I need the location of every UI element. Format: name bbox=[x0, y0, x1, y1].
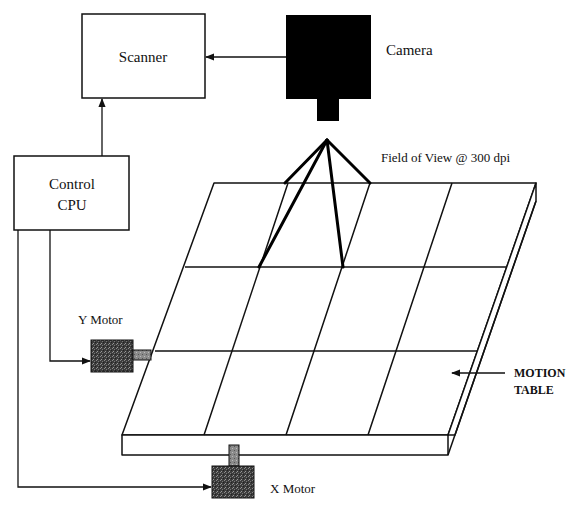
field-of-view-label: Field of View @ 300 dpi bbox=[381, 150, 510, 165]
motion-table-label-line2: TABLE bbox=[514, 383, 554, 397]
motion-table-label-line1: MOTION bbox=[514, 366, 566, 380]
y-motor-shaft-icon bbox=[133, 350, 151, 360]
camera-lens-icon bbox=[317, 99, 339, 121]
x-motor-icon bbox=[212, 466, 254, 498]
table-front-edge bbox=[122, 435, 448, 455]
motion-table-scanner-diagram: Scanner Camera Control CPU bbox=[0, 0, 581, 510]
control-cpu-label-line1: Control bbox=[49, 176, 95, 192]
scanner-label: Scanner bbox=[119, 49, 167, 65]
camera-label: Camera bbox=[386, 42, 433, 58]
camera-node: Camera bbox=[286, 15, 433, 121]
y-motor-label: Y Motor bbox=[78, 312, 123, 327]
control-cpu-node: Control CPU bbox=[14, 156, 129, 230]
camera-body-icon bbox=[286, 15, 371, 99]
table-top-surface bbox=[122, 183, 536, 435]
control-cpu-box bbox=[14, 156, 129, 230]
scanner-node: Scanner bbox=[82, 14, 205, 98]
y-motor-node: Y Motor bbox=[78, 312, 151, 372]
x-motor-shaft-icon bbox=[229, 445, 239, 466]
y-motor-icon bbox=[91, 340, 133, 372]
x-motor-label: X Motor bbox=[270, 481, 316, 496]
cpu-to-y-motor-arrow bbox=[50, 230, 90, 361]
control-cpu-label-line2: CPU bbox=[57, 197, 86, 213]
motion-table bbox=[122, 183, 536, 455]
